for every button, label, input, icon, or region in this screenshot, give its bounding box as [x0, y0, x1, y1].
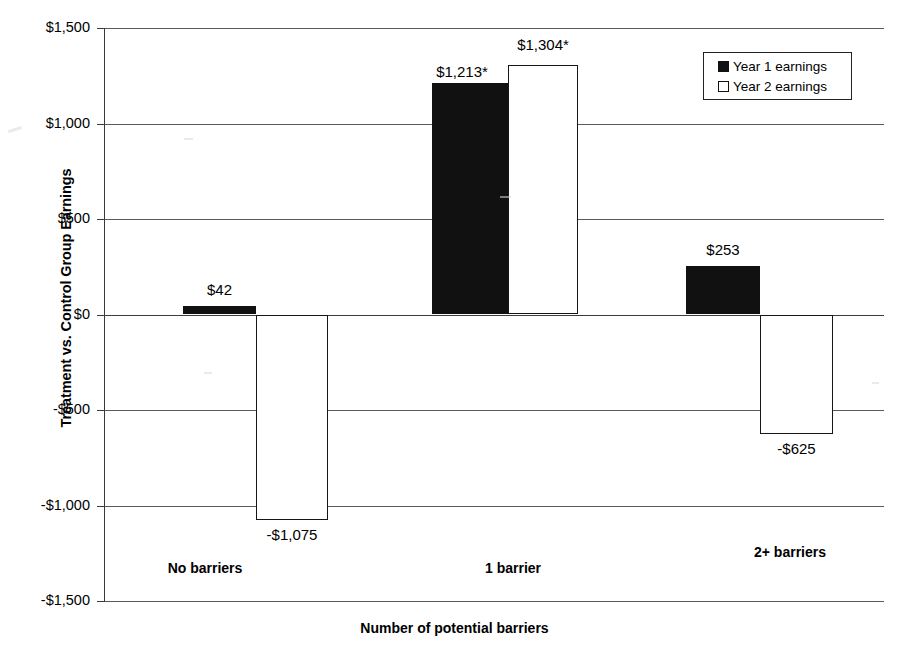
legend: Year 1 earnings Year 2 earnings: [703, 52, 852, 100]
bar-1-barrier-year-1: [432, 83, 508, 315]
value-label: $42: [150, 281, 290, 298]
value-label: $1,213*: [392, 63, 532, 80]
x-axis-label-2-barriers: 2+ barriers: [700, 544, 880, 560]
scan-speckle: [500, 196, 511, 198]
gridline: [104, 506, 884, 507]
legend-item-year-1: Year 1 earnings: [718, 57, 851, 76]
y-axis-tick-label: -$1,000: [0, 497, 90, 513]
scan-speckle: [872, 382, 879, 384]
y-axis-tick-label: $500: [0, 210, 90, 226]
y-axis-title: Treatment vs. Control Group Earnings: [58, 128, 74, 468]
y-axis-spine: [104, 28, 105, 602]
x-axis-label-no-barriers: No barriers: [115, 560, 295, 576]
legend-item-year-2: Year 2 earnings: [718, 77, 851, 96]
filled-square-icon: [718, 61, 729, 72]
y-axis-tick-label: $1,500: [0, 19, 90, 35]
earnings-bar-chart: Treatment vs. Control Group Earnings $1,…: [0, 0, 909, 646]
y-axis-tick-label: -$500: [0, 401, 90, 417]
hollow-square-icon: [718, 81, 729, 92]
value-label: $1,304*: [473, 36, 613, 53]
bar-no-barriers-year-1: [183, 306, 256, 314]
bar-2-barriers-year-2: [760, 315, 833, 434]
bar-1-barrier-year-2: [508, 65, 578, 314]
bar-2-barriers-year-1: [686, 266, 760, 314]
y-axis-tick-label: -$1,500: [0, 592, 90, 608]
scan-speckle: [204, 372, 212, 374]
x-axis-label-1-barrier: 1 barrier: [423, 560, 603, 576]
gridline: [104, 601, 884, 602]
value-label: -$1,075: [222, 526, 362, 543]
scan-speckle: [184, 138, 193, 140]
legend-label-year-2: Year 2 earnings: [733, 80, 827, 94]
y-axis-tick-label: $0: [0, 306, 90, 322]
value-label: -$625: [727, 440, 867, 457]
bar-no-barriers-year-2: [256, 315, 328, 520]
x-axis-title: Number of potential barriers: [0, 620, 909, 636]
gridline: [104, 28, 884, 29]
legend-label-year-1: Year 1 earnings: [733, 60, 827, 74]
value-label: $253: [653, 241, 793, 258]
